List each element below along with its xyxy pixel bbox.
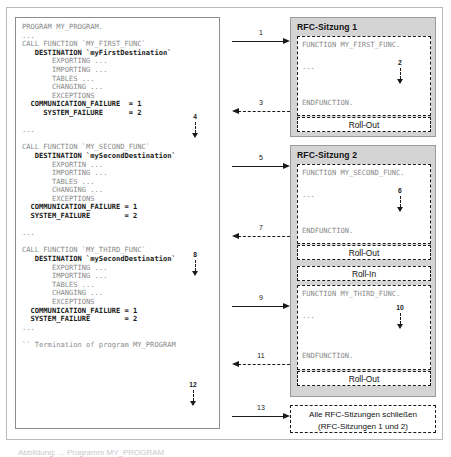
arrowhead-down-icon	[397, 79, 403, 84]
program-code-listing: PROGRAM MY_PROGRAM....CALL FUNCTION `MY_…	[22, 23, 218, 350]
rfc-session-2-roll-out-box-first: Roll-Out	[297, 245, 431, 260]
arrowhead-left-icon	[232, 361, 239, 367]
function-footer-line: ENDFUNCTION.	[302, 227, 353, 236]
function-header-line: FUNCTION MY_SECOND_FUNC.	[302, 169, 405, 178]
code-line	[22, 221, 218, 230]
arrow-shaft	[232, 166, 284, 167]
arrowhead-right-icon	[283, 303, 290, 309]
rfc-session-1-title: RFC-Sitzung 1	[297, 22, 357, 32]
code-line: SYSTEM_FAILURE = 2	[22, 315, 218, 324]
arrowhead-down-icon	[192, 133, 198, 138]
program-source-box: PROGRAM MY_PROGRAM....CALL FUNCTION `MY_…	[15, 17, 220, 429]
arrowhead-down-icon	[192, 271, 198, 276]
flow-arrow-1: 1	[232, 30, 290, 46]
function-body-ellipsis: ...	[302, 63, 315, 72]
function-body-ellipsis: ...	[302, 191, 315, 200]
flow-arrow-11: 11	[232, 353, 290, 369]
roll-out-label: Roll-Out	[349, 374, 380, 384]
code-line: SYSTEM_FAILURE = 2	[22, 212, 218, 221]
function-header-line: FUNCTION MY_THIRD_FUNC.	[302, 290, 400, 299]
arrow-shaft	[232, 416, 284, 417]
rfc-session-2-step-marker-10: 10	[390, 304, 410, 329]
function-body-ellipsis: ...	[302, 312, 315, 321]
rfc-session-1-step-marker-2: 2	[390, 59, 410, 84]
rfc-session-2-function-box: FUNCTION MY_SECOND_FUNC. ... ENDFUNCTION…	[297, 164, 431, 244]
code-line: `` Termination of program MY_PROGRAM	[22, 341, 218, 350]
program-step-marker-12: 12	[182, 381, 204, 406]
close-all-sessions-line2: (RFC-Sitzungen 1 und 2)	[291, 421, 435, 433]
rfc-session-2-title: RFC-Sitzung 2	[297, 150, 357, 160]
arrow-shaft	[232, 41, 284, 42]
program-step-marker-4: 4	[184, 113, 206, 138]
rfc-session-2-panel: RFC-Sitzung 2 FUNCTION MY_SECOND_FUNC. .…	[290, 145, 436, 397]
rfc-session-2-roll-in-box: Roll-In	[297, 266, 431, 281]
arrowhead-left-icon	[232, 233, 239, 239]
dashed-line-vertical	[400, 68, 401, 79]
function-header-line: FUNCTION MY_FIRST_FUNC.	[302, 41, 400, 50]
rfc-session-2-function-box-third: FUNCTION MY_THIRD_FUNC. ... ENDFUNCTION.…	[297, 285, 431, 370]
arrow-shaft	[232, 306, 284, 307]
arrowhead-right-icon	[283, 38, 290, 44]
arrow-shaft	[238, 236, 290, 237]
rfc-session-1-panel: RFC-Sitzung 1 FUNCTION MY_FIRST_FUNC. ..…	[290, 17, 436, 137]
flow-arrow-3: 3	[232, 100, 290, 116]
flow-arrow-13: 13	[232, 405, 290, 421]
dashed-line-vertical	[400, 313, 401, 324]
flow-arrow-9: 9	[232, 295, 290, 311]
rfc-session-1-roll-out-box: Roll-Out	[297, 117, 431, 132]
rfc-session-1-function-box: FUNCTION MY_FIRST_FUNC. ... ENDFUNCTION.…	[297, 36, 431, 116]
close-all-sessions-box: Alle RFC-Stizungen schließen (RFC-Sitzun…	[290, 405, 436, 433]
arrowhead-left-icon	[232, 108, 239, 114]
rfc-session-flow-diagram: PROGRAM MY_PROGRAM....CALL FUNCTION `MY_…	[0, 0, 451, 457]
roll-in-label: Roll-In	[352, 269, 376, 279]
arrowhead-right-icon	[283, 163, 290, 169]
dashed-line-vertical	[195, 122, 196, 133]
close-all-sessions-line1: Alle RFC-Stizungen schließen	[291, 409, 435, 421]
figure-caption: Abbildung: ... Programm MY_PROGRAM	[18, 448, 164, 457]
function-footer-line: ENDFUNCTION.	[302, 352, 353, 361]
dashed-line-vertical	[195, 260, 196, 271]
code-line: ...	[22, 229, 218, 238]
dashed-line-vertical	[400, 196, 401, 207]
arrowhead-down-icon	[190, 401, 196, 406]
flow-arrow-5: 5	[232, 155, 290, 171]
arrowhead-right-icon	[283, 413, 290, 419]
flow-arrow-7: 7	[232, 225, 290, 241]
roll-out-label: Roll-Out	[349, 120, 380, 130]
code-line: ...	[22, 324, 218, 333]
function-footer-line: ENDFUNCTION.	[302, 99, 353, 108]
roll-out-label: Roll-Out	[349, 248, 380, 258]
code-line: PROGRAM MY_PROGRAM.	[22, 23, 218, 32]
arrowhead-down-icon	[397, 207, 403, 212]
arrow-shaft	[238, 364, 290, 365]
rfc-session-2-step-marker-6: 6	[390, 187, 410, 212]
program-step-marker-8: 8	[184, 251, 206, 276]
arrowhead-down-icon	[397, 324, 403, 329]
arrow-shaft	[238, 111, 290, 112]
rfc-session-2-roll-out-box-second: Roll-Out	[297, 371, 431, 386]
dashed-line-vertical	[193, 390, 194, 401]
